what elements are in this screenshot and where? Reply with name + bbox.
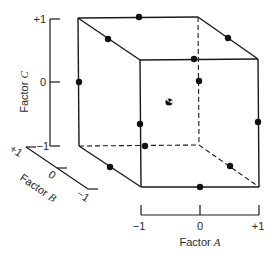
design-point [191,56,197,62]
factor-c-tick-plus1: +1 [33,13,46,25]
design-point [142,143,148,149]
cube-edge-hidden-back-bottom [79,145,199,146]
factor-a-axis [141,205,259,215]
design-point [107,164,113,170]
design-point [137,121,143,127]
design-point [225,35,231,41]
center-point [165,98,172,105]
design-point [227,163,233,169]
design-point [255,119,261,125]
factor-a-tick-minus1: −1 [133,220,146,232]
factor-b-tick-minus1: −1 [75,187,92,204]
design-point [136,14,142,20]
factor-a-tick-0: 0 [197,220,203,232]
design-point [196,78,202,84]
factor-b-tick-0: 0 [46,168,58,181]
cube-diagram-svg: +1 0 −1 Factor C +1 0 −1 Factor B −1 0 +… [0,0,278,258]
factor-a-label: Factor A [180,236,221,248]
design-point [197,184,203,190]
design-point [76,79,82,85]
cube-design-figure: +1 0 −1 Factor C +1 0 −1 Factor B −1 0 +… [0,0,278,258]
factor-c-label: Factor C [18,71,30,113]
factor-a-tick-plus1: +1 [252,220,265,232]
factor-b-tick-plus1: +1 [8,142,25,159]
factor-c-tick-minus1: −1 [36,140,49,152]
design-point [105,36,111,42]
factor-c-tick-0: 0 [40,76,46,88]
cube-edge-front-top [140,59,258,60]
factor-c-axis [50,19,60,146]
